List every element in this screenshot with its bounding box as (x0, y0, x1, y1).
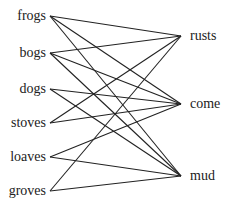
edge-frogs-rusts (50, 16, 181, 36)
left-word-bogs: bogs (0, 46, 46, 60)
edge-groves-mud (50, 176, 181, 191)
word-matching-diagram: frogs bogs dogs stoves loaves groves rus… (0, 0, 231, 208)
edge-stoves-rusts (50, 36, 181, 123)
edge-bogs-rusts (50, 36, 181, 53)
right-word-come: come (190, 97, 220, 111)
edge-loaves-mud (50, 157, 181, 176)
right-word-mud: mud (190, 169, 215, 183)
left-word-groves: groves (0, 184, 46, 198)
edge-bogs-mud (50, 53, 181, 176)
edge-loaves-come (50, 104, 181, 157)
right-word-rusts: rusts (190, 29, 216, 43)
edge-groves-rusts (50, 36, 181, 191)
left-word-loaves: loaves (0, 150, 46, 164)
left-word-dogs: dogs (0, 82, 46, 96)
left-word-stoves: stoves (0, 116, 46, 130)
left-word-frogs: frogs (0, 9, 46, 23)
